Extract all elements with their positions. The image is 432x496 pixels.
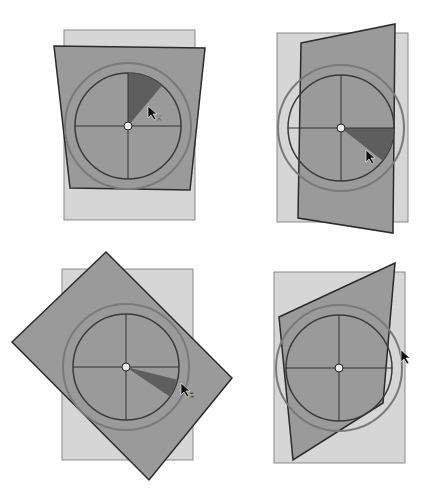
pivot-handle[interactable]	[122, 363, 130, 371]
panel-bottom-left: z	[12, 252, 232, 480]
transform-diagram: xz	[0, 0, 432, 496]
panel-top-left: x	[54, 30, 205, 220]
pivot-handle[interactable]	[124, 122, 132, 130]
pivot-handle[interactable]	[337, 124, 345, 132]
cursor-glyph: x	[157, 113, 161, 122]
pivot-handle[interactable]	[335, 364, 343, 372]
panel-bottom-right	[274, 263, 410, 463]
cursor-glyph: z	[190, 390, 194, 399]
figure-canvas: xz	[0, 0, 432, 496]
panel-top-right	[277, 24, 408, 233]
